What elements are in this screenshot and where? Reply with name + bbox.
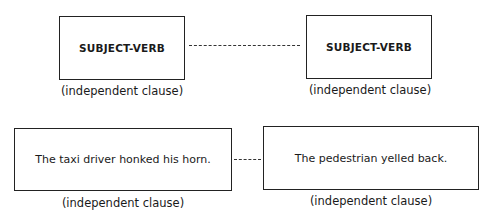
bottom-right-clause-text: The pedestrian yelled back. [295,152,448,165]
top-dashed-connector [189,45,300,46]
top-right-clause-text: SUBJECT-VERB [326,41,412,53]
bottom-right-clause-label: (independent clause) [310,194,432,208]
bottom-left-clause-text: The taxi driver honked his horn. [35,153,211,166]
bottom-left-clause-box: The taxi driver honked his horn. [14,128,232,191]
top-left-clause-box: SUBJECT-VERB [59,16,185,80]
bottom-right-clause-box: The pedestrian yelled back. [263,126,479,190]
top-right-clause-box: SUBJECT-VERB [306,15,432,79]
top-left-clause-label: (independent clause) [61,84,183,98]
bottom-left-clause-label: (independent clause) [62,196,184,210]
bottom-dashed-connector [234,159,261,160]
top-left-clause-text: SUBJECT-VERB [79,42,165,54]
top-right-clause-label: (independent clause) [309,83,431,97]
